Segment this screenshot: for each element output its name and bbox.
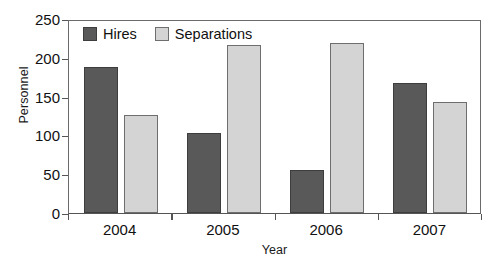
- bar[interactable]: [433, 102, 467, 213]
- chart-legend: HiresSeparations: [83, 26, 252, 42]
- y-axis-tick-label: 0: [16, 206, 60, 221]
- plot-area: HiresSeparations: [68, 20, 481, 214]
- x-axis-tick-label: 2005: [206, 221, 239, 238]
- bar-group: [379, 21, 482, 213]
- bar[interactable]: [187, 133, 221, 213]
- x-axis-tick-label: 2004: [103, 221, 136, 238]
- bar-group: [172, 21, 275, 213]
- bar-chart: Personnel 050100150200250 HiresSeparatio…: [0, 0, 499, 271]
- x-axis-tick-mark: [171, 214, 172, 220]
- bar[interactable]: [227, 45, 261, 213]
- y-axis-tick-label: 200: [16, 51, 60, 66]
- y-axis-tick-labels: 050100150200250: [16, 0, 60, 271]
- x-axis-tick-mark: [481, 214, 482, 220]
- y-axis-tick-label: 100: [16, 128, 60, 143]
- x-axis-tick-mark: [378, 214, 379, 220]
- bar[interactable]: [330, 43, 364, 213]
- bar[interactable]: [290, 170, 324, 213]
- y-axis-tick-label: 50: [16, 167, 60, 182]
- bar[interactable]: [393, 83, 427, 213]
- x-axis-tick-mark: [275, 214, 276, 220]
- bar[interactable]: [124, 115, 158, 213]
- x-axis-tick-mark: [68, 214, 69, 220]
- y-axis-tick-label: 150: [16, 90, 60, 105]
- bar-group: [276, 21, 379, 213]
- x-axis-tick-marks: [68, 214, 481, 221]
- y-axis-tick-label: 250: [16, 12, 60, 27]
- legend-label: Separations: [175, 26, 252, 42]
- legend-swatch-icon: [155, 27, 169, 41]
- legend-entry[interactable]: Separations: [155, 26, 252, 42]
- legend-swatch-icon: [83, 27, 97, 41]
- legend-label: Hires: [103, 26, 137, 42]
- bars-layer: [69, 21, 480, 213]
- bar-group: [69, 21, 172, 213]
- x-axis-tick-labels: 2004200520062007: [68, 221, 481, 241]
- legend-entry[interactable]: Hires: [83, 26, 137, 42]
- x-axis-tick-label: 2007: [413, 221, 446, 238]
- bar[interactable]: [84, 67, 118, 213]
- x-axis-title: Year: [68, 243, 481, 257]
- x-axis-tick-label: 2006: [309, 221, 342, 238]
